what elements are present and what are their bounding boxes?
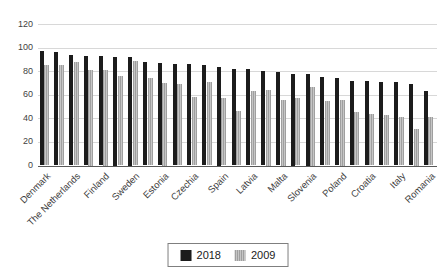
legend-label-2009: 2009 bbox=[251, 249, 275, 261]
bar-2009-13 bbox=[236, 111, 241, 165]
bar-2009-25 bbox=[414, 129, 419, 166]
x-axis-label: Poland bbox=[320, 171, 348, 199]
bar-2018-9 bbox=[173, 64, 177, 165]
bar-2009-21 bbox=[354, 112, 359, 165]
bar-2009-24 bbox=[399, 117, 404, 165]
bar-2009-4 bbox=[103, 70, 108, 166]
bar-2018-21 bbox=[350, 81, 354, 166]
bar-2018-14 bbox=[246, 69, 250, 166]
bar-2009-11 bbox=[207, 82, 212, 166]
bar-2018-12 bbox=[217, 67, 221, 166]
bar-2018-20 bbox=[335, 78, 339, 165]
y-axis-label: 40 bbox=[3, 113, 33, 124]
x-axis-label: Italy bbox=[388, 171, 407, 190]
bar-2018-2 bbox=[69, 55, 73, 166]
y-axis-label: 0 bbox=[3, 160, 33, 171]
y-axis-label: 20 bbox=[3, 136, 33, 147]
x-axis-label: Romania bbox=[403, 171, 437, 205]
bar-2009-10 bbox=[192, 97, 197, 165]
x-axis-label: Croatia bbox=[349, 171, 378, 200]
y-axis-label: 80 bbox=[3, 66, 33, 77]
bar-2018-7 bbox=[143, 62, 147, 166]
bar-2018-15 bbox=[261, 71, 265, 165]
x-axis-label: Finland bbox=[83, 171, 112, 200]
bar-2009-3 bbox=[88, 70, 93, 166]
y-axis-label: 120 bbox=[3, 19, 33, 30]
bar-2018-22 bbox=[365, 81, 369, 166]
gridline bbox=[38, 24, 437, 25]
bar-2009-23 bbox=[384, 115, 389, 166]
legend-swatch-2009 bbox=[235, 250, 246, 261]
bar-2018-5 bbox=[113, 57, 117, 166]
x-axis-label: Estonia bbox=[141, 171, 170, 200]
bar-2009-9 bbox=[177, 84, 182, 165]
y-axis-label: 100 bbox=[3, 42, 33, 53]
bar-2018-8 bbox=[158, 63, 162, 166]
bar-2009-0 bbox=[44, 65, 49, 165]
bar-2009-20 bbox=[340, 100, 345, 166]
bar-2009-5 bbox=[118, 76, 123, 166]
bar-2018-11 bbox=[202, 65, 206, 165]
bar-2009-22 bbox=[369, 114, 374, 166]
bar-2018-6 bbox=[128, 57, 132, 166]
bar-2009-1 bbox=[59, 65, 64, 165]
bar-2018-25 bbox=[409, 84, 413, 165]
y-axis-label: 60 bbox=[3, 89, 33, 100]
bar-2018-4 bbox=[99, 56, 103, 166]
bar-2009-15 bbox=[266, 90, 271, 166]
x-axis-line bbox=[38, 166, 437, 167]
gridline bbox=[38, 48, 437, 49]
bar-2018-1 bbox=[54, 52, 58, 165]
bar-2009-14 bbox=[251, 91, 256, 165]
bar-2009-7 bbox=[148, 78, 153, 165]
x-axis-label: Czechia bbox=[169, 171, 200, 202]
bar-2018-19 bbox=[320, 77, 324, 165]
bar-2018-10 bbox=[187, 64, 191, 165]
x-axis-label: Latvia bbox=[234, 171, 259, 196]
bar-2009-2 bbox=[74, 62, 79, 166]
bar-2018-17 bbox=[291, 74, 295, 166]
bar-2018-16 bbox=[276, 72, 280, 165]
bar-2009-26 bbox=[428, 117, 433, 165]
bar-2009-16 bbox=[281, 100, 286, 166]
bar-2009-12 bbox=[221, 98, 226, 165]
legend-swatch-2018 bbox=[181, 250, 192, 261]
bar-2009-6 bbox=[133, 61, 138, 166]
bar-2018-26 bbox=[424, 91, 428, 165]
x-axis-label: Malta bbox=[266, 171, 290, 195]
bar-2018-18 bbox=[306, 74, 310, 166]
x-axis-label: Sweden bbox=[110, 171, 141, 202]
bar-chart: 2018 2009 020406080100120DenmarkThe Neth… bbox=[0, 0, 446, 280]
bar-2018-0 bbox=[40, 51, 44, 165]
bar-2018-13 bbox=[232, 69, 236, 166]
bar-2009-18 bbox=[310, 87, 315, 166]
bar-2018-3 bbox=[84, 56, 88, 166]
legend-label-2018: 2018 bbox=[197, 249, 221, 261]
legend-item-2018: 2018 bbox=[181, 249, 221, 261]
legend: 2018 2009 bbox=[168, 243, 289, 267]
x-axis-label: Slovenia bbox=[286, 171, 319, 204]
bar-2009-8 bbox=[162, 83, 167, 166]
bar-2009-17 bbox=[295, 98, 300, 165]
bar-2018-23 bbox=[379, 82, 383, 166]
legend-item-2009: 2009 bbox=[235, 249, 275, 261]
bar-2009-19 bbox=[325, 101, 330, 166]
bar-2018-24 bbox=[394, 82, 398, 166]
x-axis-label: Spain bbox=[206, 171, 230, 195]
